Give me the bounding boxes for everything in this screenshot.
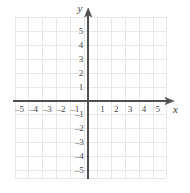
y-tick-label: –4 (70, 152, 84, 161)
x-tick-label: –5 (13, 105, 27, 114)
x-axis-label: x (173, 104, 178, 115)
axes (0, 0, 190, 193)
x-tick-label: 2 (111, 105, 121, 114)
y-tick-label: –3 (70, 138, 84, 147)
x-tick-label: 3 (125, 105, 135, 114)
y-tick-label: 3 (73, 55, 83, 64)
x-tick-label: –4 (26, 105, 40, 114)
y-tick-label: –2 (70, 124, 84, 133)
coordinate-plane-figure: –5 –4 –3 –2 –1 1 2 3 4 5 5 4 3 2 1 –1 –2… (0, 0, 190, 193)
y-tick-label: 5 (73, 27, 83, 36)
x-tick-label: 5 (153, 105, 163, 114)
x-tick-label: 1 (97, 105, 107, 114)
x-tick-label: –2 (54, 105, 68, 114)
y-tick-label: 2 (73, 69, 83, 78)
x-tick-label: 4 (139, 105, 149, 114)
y-tick-label: –1 (70, 110, 84, 119)
y-tick-label: –5 (70, 166, 84, 175)
y-axis-label: y (78, 3, 83, 14)
y-tick-label: 1 (73, 83, 83, 92)
y-tick-label: 4 (73, 41, 83, 50)
x-tick-label: –3 (40, 105, 54, 114)
